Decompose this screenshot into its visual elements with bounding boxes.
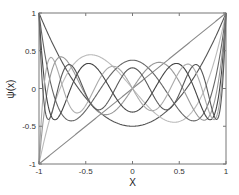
chart-figure: -1-0.500.51-1-0.500.51 X ψ(x) <box>0 0 239 195</box>
x-axis-label: X <box>129 177 136 188</box>
x-tick-label: 1 <box>224 167 229 176</box>
y-tick-label: 1 <box>32 9 37 18</box>
y-tick-label: -0.5 <box>22 122 36 131</box>
x-tick-label: 0 <box>130 167 135 176</box>
y-tick-label: 0 <box>32 85 37 94</box>
y-tick-label: -1 <box>29 160 37 169</box>
x-tick-label: -1 <box>35 167 43 176</box>
curve-p4 <box>39 13 226 121</box>
curve-p2 <box>39 13 226 126</box>
y-axis-label: ψ(x) <box>5 80 16 99</box>
x-tick-label: 0.5 <box>174 167 186 176</box>
y-tick-label: 0.5 <box>25 47 37 56</box>
plot-curves <box>39 13 226 164</box>
x-tick-label: -0.5 <box>79 167 93 176</box>
